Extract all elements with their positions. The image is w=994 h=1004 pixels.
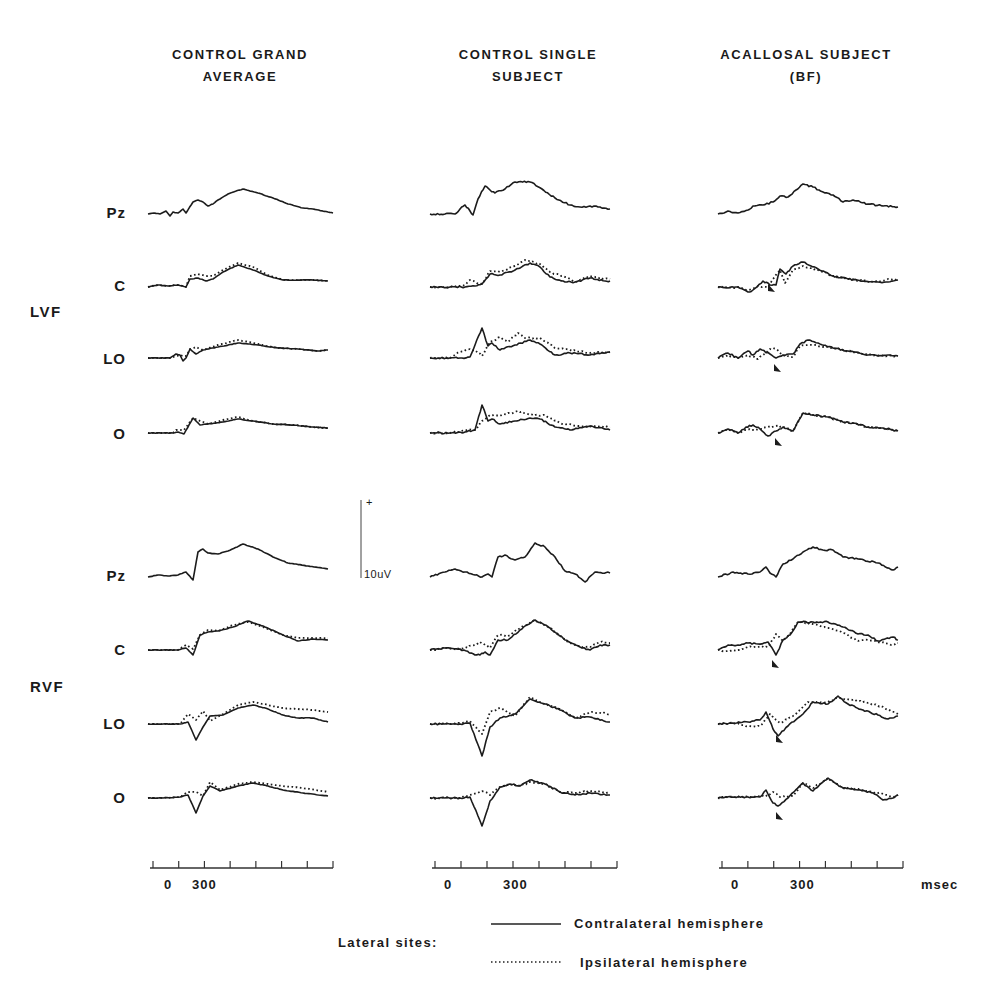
trace-lvf-o-solid bbox=[718, 413, 898, 436]
trace-lvf-o-solid bbox=[430, 405, 610, 434]
erp-traces bbox=[148, 181, 898, 826]
trace-lvf-pz-solid bbox=[718, 184, 898, 214]
trace-lvf-o-solid bbox=[148, 418, 328, 434]
trace-rvf-pz-solid bbox=[430, 543, 610, 582]
trace-rvf-o-dotted bbox=[718, 778, 898, 798]
arrowhead-markers bbox=[768, 284, 783, 820]
trace-lvf-c-solid bbox=[148, 265, 328, 287]
trace-lvf-c-solid bbox=[430, 263, 610, 288]
trace-rvf-c-solid bbox=[718, 621, 898, 655]
trace-rvf-o-dotted bbox=[430, 782, 610, 799]
trace-rvf-lo-dotted bbox=[430, 697, 610, 734]
trace-rvf-o-dotted bbox=[148, 782, 328, 798]
trace-rvf-lo-dotted bbox=[148, 702, 328, 724]
trace-lvf-lo-solid bbox=[430, 328, 610, 359]
trace-lvf-c-dotted bbox=[430, 260, 610, 288]
trace-rvf-pz-solid bbox=[148, 544, 328, 580]
trace-lvf-lo-solid bbox=[148, 343, 328, 361]
trace-rvf-c-solid bbox=[148, 621, 328, 655]
trace-lvf-pz-solid bbox=[148, 189, 333, 216]
trace-rvf-c-dotted bbox=[430, 620, 610, 650]
trace-rvf-lo-solid bbox=[148, 705, 328, 740]
trace-rvf-c-dotted bbox=[148, 622, 328, 650]
trace-rvf-c-solid bbox=[430, 620, 610, 655]
trace-lvf-c-dotted bbox=[718, 266, 898, 290]
trace-rvf-o-solid bbox=[430, 780, 610, 826]
arrowhead-icon bbox=[776, 812, 783, 820]
trace-lvf-pz-solid bbox=[430, 181, 610, 215]
trace-rvf-pz-solid bbox=[718, 547, 898, 577]
erp-plot-area bbox=[0, 0, 994, 1004]
arrowhead-icon bbox=[776, 735, 783, 743]
arrowhead-icon bbox=[775, 438, 782, 446]
time-axes bbox=[150, 861, 903, 868]
trace-lvf-lo-solid bbox=[718, 340, 898, 358]
trace-lvf-c-solid bbox=[718, 262, 898, 292]
trace-rvf-lo-solid bbox=[430, 699, 610, 756]
arrowhead-icon bbox=[772, 660, 779, 668]
trace-lvf-o-dotted bbox=[718, 413, 898, 433]
trace-lvf-o-dotted bbox=[430, 411, 610, 434]
arrowhead-icon bbox=[774, 364, 781, 372]
trace-lvf-c-dotted bbox=[148, 263, 328, 287]
